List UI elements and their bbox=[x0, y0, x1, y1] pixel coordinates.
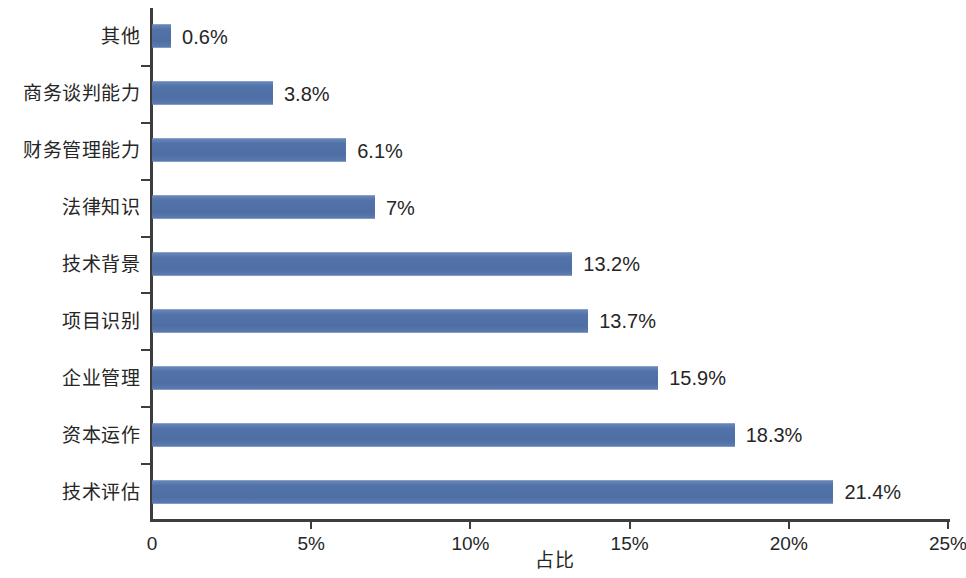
bar-row: 技术背景13.2% bbox=[152, 236, 948, 293]
category-label: 商务谈判能力 bbox=[23, 84, 140, 103]
bar: 21.4% bbox=[152, 480, 833, 503]
bar: 18.3% bbox=[152, 423, 735, 446]
bar-row: 财务管理能力6.1% bbox=[152, 122, 948, 179]
bar-value-label: 13.7% bbox=[599, 311, 656, 331]
bar-value-label: 0.6% bbox=[182, 26, 228, 46]
category-label: 法律知识 bbox=[62, 198, 140, 217]
bar-value-label: 7% bbox=[386, 197, 415, 217]
category-label: 资本运作 bbox=[62, 425, 140, 444]
bar-value-label: 6.1% bbox=[357, 140, 403, 160]
y-axis-tick bbox=[141, 179, 152, 181]
x-axis-tick-label: 0 bbox=[147, 534, 158, 553]
x-axis-tick bbox=[310, 519, 312, 529]
bar-row: 项目识别13.7% bbox=[152, 292, 948, 349]
bar: 13.7% bbox=[152, 309, 588, 332]
bar-value-label: 21.4% bbox=[844, 482, 901, 502]
bar: 6.1% bbox=[152, 139, 346, 162]
bar-value-label: 15.9% bbox=[669, 368, 726, 388]
x-axis-tick bbox=[947, 519, 949, 529]
bar-value-label: 18.3% bbox=[746, 425, 803, 445]
bar-chart: 其他0.6%商务谈判能力3.8%财务管理能力6.1%法律知识7%技术背景13.2… bbox=[0, 0, 966, 578]
x-axis-tick bbox=[469, 519, 471, 529]
category-label: 技术背景 bbox=[62, 254, 140, 273]
category-label: 项目识别 bbox=[62, 311, 140, 330]
bar: 3.8% bbox=[152, 82, 273, 105]
category-label: 其他 bbox=[101, 27, 140, 46]
y-axis-tick bbox=[141, 65, 152, 67]
category-label: 技术评估 bbox=[62, 482, 140, 501]
y-axis-tick bbox=[141, 292, 152, 294]
plot-area: 其他0.6%商务谈判能力3.8%财务管理能力6.1%法律知识7%技术背景13.2… bbox=[152, 8, 948, 520]
x-axis-tick-label: 20% bbox=[770, 534, 808, 553]
bar-row: 法律知识7% bbox=[152, 179, 948, 236]
bar-row: 其他0.6% bbox=[152, 8, 948, 65]
y-axis-tick bbox=[141, 122, 152, 124]
category-label: 企业管理 bbox=[62, 368, 140, 387]
bar-value-label: 13.2% bbox=[583, 254, 640, 274]
x-axis-tick-label: 25% bbox=[929, 534, 966, 553]
x-axis-tick bbox=[629, 519, 631, 529]
bar: 15.9% bbox=[152, 366, 658, 389]
x-axis-tick-label: 15% bbox=[611, 534, 649, 553]
bar-row: 资本运作18.3% bbox=[152, 406, 948, 463]
bar-row: 企业管理15.9% bbox=[152, 349, 948, 406]
y-axis-tick bbox=[141, 406, 152, 408]
y-axis-tick bbox=[141, 349, 152, 351]
bar-row: 技术评估21.4% bbox=[152, 463, 948, 520]
bar-row: 商务谈判能力3.8% bbox=[152, 65, 948, 122]
bar-value-label: 3.8% bbox=[284, 83, 330, 103]
x-axis-tick-label: 5% bbox=[297, 534, 324, 553]
bar: 7% bbox=[152, 196, 375, 219]
y-axis-tick bbox=[141, 463, 152, 465]
category-label: 财务管理能力 bbox=[23, 141, 140, 160]
x-axis-tick bbox=[788, 519, 790, 529]
y-axis-tick bbox=[141, 236, 152, 238]
x-axis-tick-label: 10% bbox=[451, 534, 489, 553]
bar: 13.2% bbox=[152, 252, 572, 275]
x-axis-title: 占比 bbox=[535, 551, 575, 570]
bar: 0.6% bbox=[152, 25, 171, 48]
